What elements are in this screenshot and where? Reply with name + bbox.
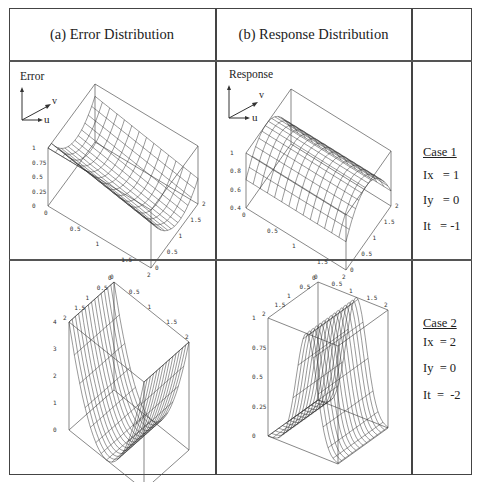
- svg-text:0: 0: [252, 432, 256, 439]
- case-2-title: Case 2: [423, 317, 461, 330]
- svg-text:2: 2: [262, 310, 266, 317]
- svg-text:1.5: 1.5: [367, 294, 378, 301]
- svg-text:1: 1: [292, 242, 296, 249]
- error-surface-plot-case-1: 10.750.50.25000.511.5200.511.52: [9, 60, 215, 259]
- svg-text:0: 0: [53, 426, 57, 433]
- svg-text:2: 2: [202, 200, 206, 207]
- case-1-params: Case 1 Ix = 1 Iy = 0 It = -1: [423, 146, 461, 232]
- svg-text:2: 2: [395, 202, 399, 209]
- case-2-iy: Iy = 0: [423, 362, 461, 375]
- svg-text:0.75: 0.75: [252, 344, 267, 351]
- svg-text:1.5: 1.5: [190, 216, 201, 223]
- svg-text:0.6: 0.6: [230, 186, 241, 193]
- svg-text:0.5: 0.5: [300, 283, 311, 290]
- svg-text:0.75: 0.75: [32, 159, 47, 166]
- svg-text:0.4: 0.4: [230, 204, 241, 211]
- svg-text:1.5: 1.5: [166, 318, 177, 325]
- svg-text:1: 1: [287, 292, 291, 299]
- svg-text:0: 0: [32, 202, 36, 209]
- svg-text:1: 1: [148, 303, 152, 310]
- svg-text:0: 0: [314, 273, 318, 280]
- case-1-iy: Iy = 0: [423, 194, 461, 207]
- svg-text:0.5: 0.5: [267, 227, 278, 234]
- case-2-params: Case 2 Ix = 2 Iy = 0 It = -2: [423, 317, 461, 401]
- case-2-ix: Ix = 2: [423, 336, 461, 349]
- svg-text:2: 2: [185, 333, 189, 340]
- svg-text:1: 1: [86, 294, 90, 301]
- svg-text:2: 2: [53, 372, 57, 379]
- svg-text:4: 4: [53, 318, 57, 325]
- svg-text:3: 3: [53, 345, 57, 352]
- svg-text:0.5: 0.5: [70, 225, 81, 232]
- svg-text:0.5: 0.5: [252, 373, 263, 380]
- response-surface-plot-case-1: 10.80.60.400.511.5200.511.52: [216, 60, 411, 259]
- svg-text:2: 2: [63, 314, 67, 321]
- svg-text:2: 2: [384, 301, 388, 308]
- svg-text:0.5: 0.5: [32, 173, 43, 180]
- svg-text:1: 1: [32, 144, 36, 151]
- case-1-it: It = -1: [423, 220, 461, 233]
- svg-text:0.5: 0.5: [97, 284, 108, 291]
- svg-text:0: 0: [242, 211, 246, 218]
- svg-text:0.5: 0.5: [332, 280, 343, 287]
- svg-text:0: 0: [44, 209, 48, 216]
- error-surface-plot-case-2: 4321000.511.5200.511.52: [9, 260, 215, 475]
- case-1-ix: Ix = 1: [423, 169, 461, 182]
- svg-text:1.5: 1.5: [74, 304, 85, 311]
- svg-text:0.25: 0.25: [252, 403, 267, 410]
- svg-text:0.8: 0.8: [230, 167, 241, 174]
- svg-text:1: 1: [349, 287, 353, 294]
- header-case-column: [412, 8, 472, 60]
- svg-text:1: 1: [373, 234, 377, 241]
- svg-text:1: 1: [96, 240, 100, 247]
- svg-text:0.5: 0.5: [361, 250, 372, 257]
- svg-text:1: 1: [252, 314, 256, 321]
- header-response-distribution: (b) Response Distribution: [216, 8, 411, 60]
- response-surface-plot-case-2: 10.750.50.25000.511.5200.511.52: [216, 260, 411, 475]
- svg-text:0: 0: [110, 273, 114, 280]
- case-1-title: Case 1: [423, 146, 461, 159]
- column-divider-2: [411, 8, 413, 475]
- svg-text:1: 1: [179, 232, 183, 239]
- header-error-distribution: (a) Error Distribution: [9, 8, 215, 60]
- svg-text:1.5: 1.5: [275, 301, 286, 308]
- svg-text:0.5: 0.5: [129, 288, 140, 295]
- svg-text:1.5: 1.5: [384, 218, 395, 225]
- case-2-it: It = -2: [423, 389, 461, 402]
- svg-text:0.5: 0.5: [167, 248, 178, 255]
- svg-text:1: 1: [53, 399, 57, 406]
- svg-text:1: 1: [230, 149, 234, 156]
- svg-text:0.25: 0.25: [32, 188, 47, 195]
